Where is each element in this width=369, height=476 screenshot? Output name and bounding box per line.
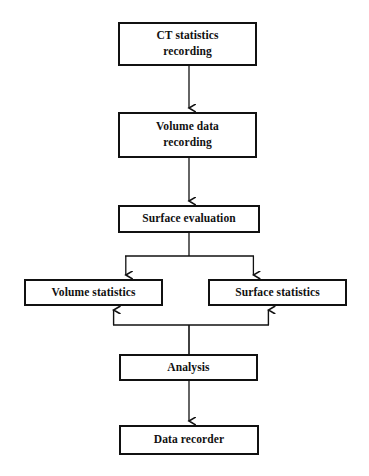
- node-label: Volume data recording: [152, 119, 223, 150]
- node-label: Data recorder: [150, 432, 228, 448]
- node-label: CT statistics recording: [152, 28, 222, 59]
- node-surface-evaluation[interactable]: Surface evaluation: [118, 205, 260, 233]
- node-analysis[interactable]: Analysis: [119, 354, 258, 381]
- node-volume-data-recording[interactable]: Volume data recording: [118, 112, 257, 158]
- flowchart-diagram: CT statistics recording Volume data reco…: [0, 0, 369, 476]
- node-surface-statistics[interactable]: Surface statistics: [208, 279, 347, 306]
- node-data-recorder[interactable]: Data recorder: [119, 425, 259, 455]
- node-label: Analysis: [163, 360, 213, 376]
- flowchart-connectors: [0, 0, 369, 476]
- node-label: Surface statistics: [231, 285, 324, 301]
- node-label: Surface evaluation: [138, 211, 239, 227]
- node-label: Volume statistics: [47, 285, 139, 301]
- node-volume-statistics[interactable]: Volume statistics: [24, 279, 163, 306]
- node-ct-statistics-recording[interactable]: CT statistics recording: [118, 22, 257, 66]
